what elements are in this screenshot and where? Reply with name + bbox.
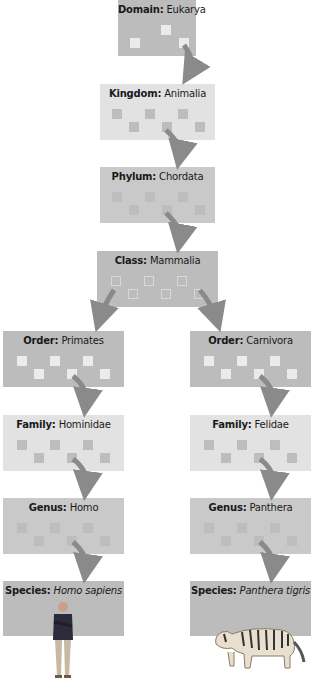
tiger-figure-icon xyxy=(212,622,308,672)
human-figure-icon xyxy=(48,600,78,679)
arrow-icon xyxy=(166,130,180,155)
arrow-icon xyxy=(184,45,192,72)
hierarchy-arrows xyxy=(0,0,313,679)
